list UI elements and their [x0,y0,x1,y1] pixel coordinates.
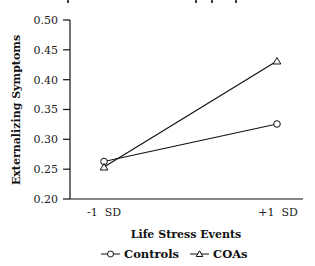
circle-marker-icon [108,251,114,257]
legend-item-controls: Controls [101,247,179,261]
svg-text:0.50: 0.50 [34,14,59,27]
legend: Controls COAs [101,247,248,261]
svg-text:0.30: 0.30 [34,133,59,146]
x-axis-title: Life Stress Events [131,228,242,241]
legend-item-coas: COAs [190,247,248,261]
series-coas [100,58,281,171]
x-tick-label-low: -1 SD [87,206,121,219]
svg-text:0.25: 0.25 [34,163,59,176]
controls-marker-high [274,121,281,128]
svg-text:Controls: Controls [124,247,179,261]
svg-text:COAs: COAs [213,247,248,261]
svg-text:0.35: 0.35 [34,103,59,116]
y-axis-title: Externalizing Symptoms [10,35,23,185]
svg-text:0.40: 0.40 [34,74,59,87]
series-controls [101,121,281,165]
y-axis [63,20,70,199]
y-tick-labels: 0.50 0.45 0.40 0.35 0.30 0.25 0.20 [34,14,59,206]
x-tick-label-high: +1 SD [258,206,298,219]
coas-marker-low [100,164,108,171]
svg-text:0.20: 0.20 [34,193,59,206]
chart-canvas: Externalizing Symptoms 0.50 0.45 0.40 0.… [0,0,315,266]
coas-marker-high [273,58,281,65]
cropped-title-fragment [68,0,236,3]
svg-text:0.45: 0.45 [34,44,59,57]
